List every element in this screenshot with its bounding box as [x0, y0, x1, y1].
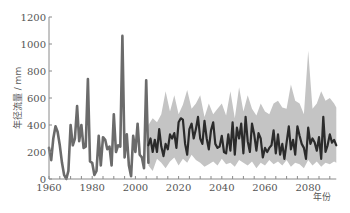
y-tick-label: 1200 [21, 12, 46, 23]
y-tick-label: 600 [27, 93, 46, 104]
observed-runoff-line [49, 36, 148, 179]
y-tick-label: 1000 [21, 39, 46, 50]
x-tick-label: 2060 [252, 182, 277, 193]
y-tick-label: 800 [27, 66, 46, 77]
x-tick-label: 2020 [166, 182, 191, 193]
plot-area [49, 36, 336, 179]
y-tick-label: 400 [27, 120, 46, 131]
x-tick-label: 2040 [209, 182, 234, 193]
x-axis-label: 年份 [313, 191, 331, 202]
y-tick-label: 200 [27, 147, 46, 158]
x-tick-label: 1980 [79, 182, 104, 193]
x-tick-label: 2000 [123, 182, 148, 193]
y-axis-label: 年径流量 / mm [12, 67, 23, 129]
x-tick-label: 1960 [36, 182, 61, 193]
runoff-chart: 0200400600800100012001960198020002020204… [0, 0, 350, 213]
